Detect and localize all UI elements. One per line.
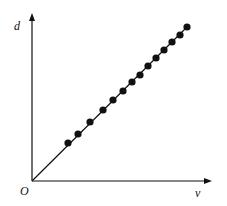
axes: [29, 13, 212, 184]
data-point: [136, 71, 143, 78]
data-point: [183, 23, 190, 30]
data-point: [144, 62, 151, 69]
x-axis-label: v: [195, 186, 201, 200]
data-point: [99, 106, 106, 113]
chart: d O v: [0, 0, 227, 206]
data-point: [86, 118, 93, 125]
data-point: [128, 78, 135, 85]
y-axis-label: d: [14, 19, 21, 33]
data-point: [74, 130, 81, 137]
data-point: [176, 31, 183, 38]
data-point: [119, 87, 126, 94]
y-axis-arrow-icon: [29, 13, 35, 21]
data-points: [64, 23, 190, 146]
data-point: [168, 38, 175, 45]
data-point: [64, 139, 71, 146]
data-point: [152, 54, 159, 61]
x-axis-arrow-icon: [204, 178, 212, 184]
data-point: [109, 96, 116, 103]
origin-label: O: [20, 184, 29, 198]
data-point: [160, 46, 167, 53]
